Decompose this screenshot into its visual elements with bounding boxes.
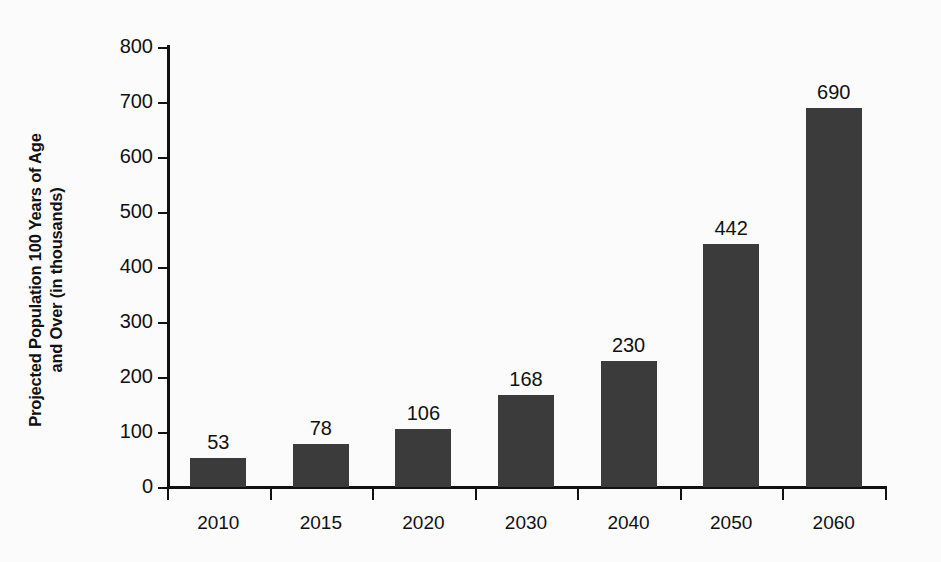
x-axis-tick-label: 2040 <box>579 512 679 534</box>
bar-value-label: 690 <box>794 81 874 104</box>
x-axis-tick-label: 2015 <box>271 512 371 534</box>
y-axis-tick-mark <box>158 157 167 159</box>
y-axis-tick-mark <box>158 432 167 434</box>
y-axis-tick-label: 700 <box>120 90 153 113</box>
y-axis-title-line-2: and Over (in thousands) <box>46 187 67 372</box>
x-axis-tick-label: 2030 <box>476 512 576 534</box>
plot-area: 0100200300400500600700800 53781061682304… <box>167 47 885 487</box>
y-axis-tick-mark <box>158 212 167 214</box>
bar <box>806 108 862 488</box>
x-axis-tick-mark <box>475 488 477 500</box>
y-axis-tick-mark <box>158 47 167 49</box>
bar <box>601 361 657 488</box>
y-axis-tick-label: 200 <box>120 365 153 388</box>
bar-value-label: 106 <box>383 402 463 425</box>
x-axis-tick-mark <box>885 488 887 500</box>
y-axis-tick-label: 400 <box>120 255 153 278</box>
x-axis-tick-label: 2010 <box>168 512 268 534</box>
bar <box>498 395 554 487</box>
bar-value-label: 78 <box>281 417 361 440</box>
bar <box>293 444 349 487</box>
x-axis-tick-mark <box>782 488 784 500</box>
x-axis-tick-mark <box>680 488 682 500</box>
x-axis-tick-label: 2060 <box>784 512 884 534</box>
y-axis-tick-mark <box>158 487 167 489</box>
y-axis-tick-mark <box>158 322 167 324</box>
y-axis-tick-label: 800 <box>120 35 153 58</box>
bar-value-label: 442 <box>691 217 771 240</box>
x-axis-tick-mark <box>577 488 579 500</box>
y-axis-title: Projected Population 100 Years of Age an… <box>20 65 72 495</box>
y-axis-tick-label: 500 <box>120 200 153 223</box>
bar-value-label: 168 <box>486 368 566 391</box>
x-axis-tick-mark <box>372 488 374 500</box>
y-axis-tick-mark <box>158 267 167 269</box>
x-axis-tick-label: 2020 <box>373 512 473 534</box>
y-axis-tick-mark <box>158 377 167 379</box>
x-axis-tick-label: 2050 <box>681 512 781 534</box>
bar-value-label: 230 <box>589 334 669 357</box>
bar-value-label: 53 <box>178 431 258 454</box>
y-axis-tick-label: 300 <box>120 310 153 333</box>
y-axis-title-line-1: Projected Population 100 Years of Age <box>25 133 46 426</box>
y-axis-tick-mark <box>158 102 167 104</box>
x-axis-tick-mark <box>167 488 169 500</box>
bar <box>190 458 246 487</box>
y-axis-tick-label: 0 <box>142 475 153 498</box>
bar-chart: Projected Population 100 Years of Age an… <box>0 0 941 562</box>
y-axis-tick-label: 600 <box>120 145 153 168</box>
bar <box>703 244 759 487</box>
x-axis-tick-mark <box>270 488 272 500</box>
y-axis-tick-label: 100 <box>120 420 153 443</box>
bar <box>395 429 451 487</box>
